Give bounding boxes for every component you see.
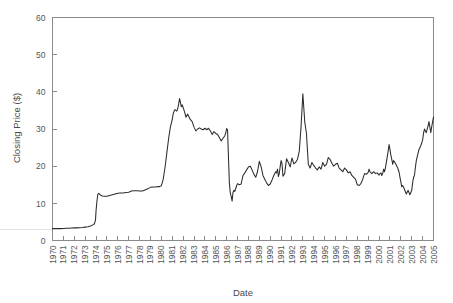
x-tick-label: 1971 [59,245,68,264]
closing-price-line-chart: 0102030405060 19701971197219731974197519… [0,0,453,303]
x-tick-label: 2001 [386,245,395,264]
x-tick-label: 1999 [364,245,373,264]
x-tick-label: 1978 [136,245,145,264]
x-tick-label: 1986 [223,245,232,264]
x-tick-label: 1989 [255,245,264,264]
x-axis-title: Date [233,287,253,298]
x-tick-label: 1982 [179,245,188,264]
x-tick-label: 1973 [81,245,90,264]
x-tick-label: 1981 [168,245,177,264]
chart-container: 0102030405060 19701971197219731974197519… [0,0,453,303]
x-tick-label: 2000 [375,245,384,264]
x-tick-label: 1991 [277,245,286,264]
x-tick-label: 1987 [234,245,243,264]
y-tick-label: 10 [36,199,46,209]
x-tick-label: 1984 [201,245,210,264]
y-tick-label: 50 [36,50,46,60]
x-tick-label: 1997 [342,245,351,264]
y-tick-label: 0 [41,236,46,246]
x-tick-label: 1990 [266,245,275,264]
x-tick-label: 1995 [321,245,330,264]
x-tick-label: 1979 [146,245,155,264]
x-tick-label: 2005 [430,245,439,264]
y-tick-label: 40 [36,87,46,97]
y-axis-title: Closing Price ($) [11,93,22,163]
x-tick-label: 1996 [332,245,341,264]
x-tick-label: 1988 [244,245,253,264]
x-tick-label: 2002 [397,245,406,264]
x-tick-label: 1977 [125,245,134,264]
x-tick-label: 1994 [310,245,319,264]
y-tick-label: 60 [36,13,46,23]
x-tick-label: 1972 [70,245,79,264]
x-tick-label: 1992 [288,245,297,264]
x-axis-tick-labels: 1970197119721973197419751976197719781979… [49,245,439,264]
y-tick-label: 20 [36,161,46,171]
x-tick-label: 1976 [114,245,123,264]
x-tick-label: 1975 [103,245,112,264]
x-tick-label: 1993 [299,245,308,264]
x-tick-label: 2003 [408,245,417,264]
y-tick-label: 30 [36,124,46,134]
x-tick-label: 2004 [419,245,428,264]
x-tick-label: 1985 [212,245,221,264]
x-tick-label: 1998 [353,245,362,264]
x-tick-label: 1983 [190,245,199,264]
x-tick-label: 1980 [157,245,166,264]
x-tick-label: 1974 [92,245,101,264]
x-tick-label: 1970 [49,245,58,264]
